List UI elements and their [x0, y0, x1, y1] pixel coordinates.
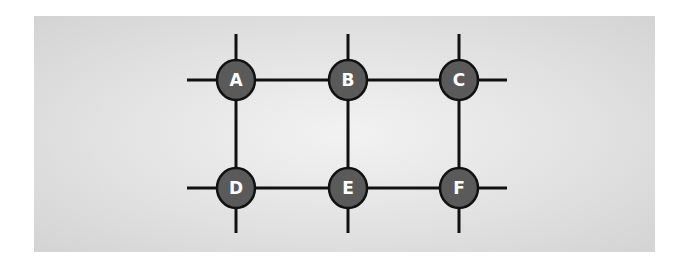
node-label: E [342, 178, 354, 198]
node-F: F [440, 168, 478, 208]
node-D: D [217, 168, 255, 208]
grid-network-diagram: A B C D E F [0, 0, 684, 268]
node-C: C [440, 60, 478, 100]
node-label: F [453, 178, 465, 198]
node-label: C [453, 70, 465, 90]
node-B: B [329, 60, 367, 100]
node-label: D [229, 178, 243, 198]
node-label: A [229, 70, 243, 90]
node-E: E [329, 168, 367, 208]
node-A: A [217, 60, 255, 100]
node-label: B [342, 70, 355, 90]
